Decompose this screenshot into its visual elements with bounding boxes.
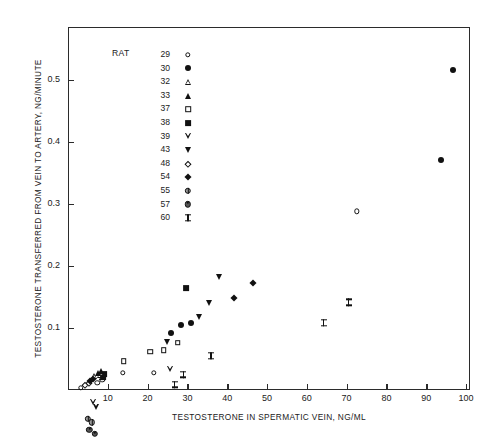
data-point-rat-37 <box>121 359 127 365</box>
legend-item-label: 32 <box>148 75 170 89</box>
x-axis-tick <box>386 384 387 390</box>
legend-item-label: 39 <box>148 130 170 144</box>
data-point-rat-57 <box>92 431 98 437</box>
plot-area <box>68 27 470 390</box>
x-axis-tick <box>267 384 268 390</box>
x-axis-tick-label: 20 <box>128 393 168 403</box>
x-axis-tick-label: 100 <box>446 393 486 403</box>
x-axis-tick-label: 60 <box>287 393 327 403</box>
data-point-rat-30 <box>438 157 444 163</box>
data-point-rat-60 <box>180 371 186 378</box>
x-axis-tick <box>347 384 348 390</box>
legend-marker-tri-dn-open <box>185 133 191 139</box>
x-axis-tick <box>307 384 308 390</box>
y-axis-tick <box>68 142 74 143</box>
y-axis-tick <box>68 266 74 267</box>
data-point-rat-38 <box>183 285 189 291</box>
legend-item-label: 38 <box>148 116 170 130</box>
y-axis-tick-label: 0.1 <box>20 322 60 332</box>
legend-item-label: 33 <box>148 89 170 103</box>
legend-marker-tri-dn-fill <box>185 147 191 153</box>
x-axis-tick <box>187 384 188 390</box>
x-axis-tick <box>426 384 427 390</box>
y-axis-tick <box>68 328 74 329</box>
legend-item-label: 48 <box>148 157 170 171</box>
x-axis-tick-label: 80 <box>366 393 406 403</box>
data-point-rat-60 <box>346 299 352 306</box>
data-point-rat-39 <box>167 366 173 372</box>
y-axis-tick <box>68 204 74 205</box>
data-point-rat-37 <box>161 347 167 353</box>
legend-item-label: 29 <box>148 48 170 62</box>
legend-item-label: 57 <box>148 198 170 212</box>
data-point-rat-39 <box>93 404 99 410</box>
legend-item-label: 60 <box>148 211 170 225</box>
data-point-rat-37 <box>175 340 181 346</box>
y-axis-tick-label: 0.4 <box>20 136 60 146</box>
data-point-rat-43 <box>196 314 202 320</box>
y-axis-tick-label: 0.3 <box>20 198 60 208</box>
x-axis-tick-label: 70 <box>327 393 367 403</box>
y-axis-tick-label: 0.2 <box>20 260 60 270</box>
data-point-rat-43 <box>164 339 170 345</box>
legend-marker-circle-fill <box>185 65 191 71</box>
x-axis-tick <box>108 384 109 390</box>
x-axis-title: TESTOSTERONE IN SPERMATIC VEIN, NG/ML <box>68 412 470 422</box>
x-axis-tick-label: 90 <box>406 393 446 403</box>
legend-item-label: 55 <box>148 184 170 198</box>
y-axis-tick <box>68 80 74 81</box>
legend-item-label: 30 <box>148 62 170 76</box>
data-point-rat-43 <box>216 274 222 280</box>
legend-marker-ibeam <box>185 214 191 221</box>
data-point-rat-60 <box>172 381 178 388</box>
data-point-rat-30 <box>188 320 194 326</box>
legend-item-label: 37 <box>148 102 170 116</box>
legend-item-label: 54 <box>148 170 170 184</box>
data-point-rat-38 <box>102 371 108 377</box>
legend-marker-sq-fill <box>185 120 191 126</box>
legend-marker-tri-up-fill <box>185 93 191 99</box>
data-point-rat-30 <box>178 322 184 328</box>
data-point-rat-43 <box>206 300 212 306</box>
x-axis-tick-label: 40 <box>207 393 247 403</box>
y-axis-tick-label: 0.5 <box>20 74 60 84</box>
legend-title: RAT <box>112 48 130 58</box>
data-point-rat-60 <box>321 319 327 326</box>
data-point-rat-30 <box>168 330 174 336</box>
data-point-rat-60 <box>208 352 214 359</box>
data-point-rat-30 <box>450 67 456 73</box>
data-point-rat-37 <box>147 349 153 355</box>
x-axis-tick <box>227 384 228 390</box>
x-axis-tick <box>148 384 149 390</box>
legend-item-label: 43 <box>148 143 170 157</box>
legend-marker-tri-up-open <box>185 79 191 85</box>
x-axis-tick <box>466 384 467 390</box>
x-axis-tick-label: 50 <box>247 393 287 403</box>
legend-marker-sq-open <box>185 106 191 112</box>
scatter-plot-figure: TESTOSTERONE TRANSFERRED FROM VEIN TO AR… <box>0 0 498 440</box>
x-axis-tick-label: 30 <box>167 393 207 403</box>
